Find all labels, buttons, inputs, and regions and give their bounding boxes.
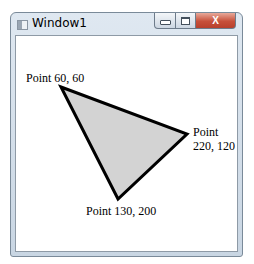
minimize-button[interactable] (154, 13, 176, 29)
close-icon: X (212, 15, 219, 26)
caption-buttons: X (154, 13, 236, 30)
close-button[interactable]: X (196, 13, 236, 29)
window-title: Window1 (32, 16, 87, 30)
triangle-polygon (61, 87, 187, 199)
title-bar[interactable]: Window1 X (11, 13, 242, 35)
client-area: Point 60, 60 Point 220, 120 Point 130, 2… (15, 35, 238, 252)
window: Window1 X Point 60, 60 Point 220, 120 Po… (10, 12, 243, 257)
maximize-button[interactable] (176, 13, 196, 29)
label-point-3: Point 130, 200 (86, 204, 156, 218)
app-icon[interactable] (17, 20, 28, 30)
maximize-icon (181, 17, 190, 25)
label-point-2-line2: 220, 120 (193, 139, 235, 153)
label-point-2-line1: Point (193, 125, 218, 139)
minimize-icon (160, 20, 171, 25)
label-point-1: Point 60, 60 (26, 71, 84, 85)
